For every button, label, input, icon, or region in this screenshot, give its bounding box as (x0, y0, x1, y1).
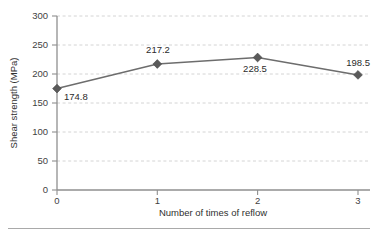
x-axis-title: Number of times of reflow (159, 207, 267, 218)
data-point-marker-1 (153, 60, 162, 69)
y-tick-marks (52, 16, 57, 190)
y-tick-label-0: 0 (43, 184, 48, 195)
data-point-label-0: 174.8 (64, 91, 88, 102)
data-point-marker-3 (354, 71, 363, 80)
data-markers (53, 53, 363, 93)
x-tick-labels: 0 1 2 3 (54, 195, 360, 206)
data-point-labels: 174.8 217.2 228.5 198.5 (64, 44, 370, 102)
x-tick-label-2: 2 (255, 195, 260, 206)
y-tick-label-200: 200 (32, 68, 48, 79)
gridlines (57, 16, 370, 161)
footer-divider (8, 228, 370, 229)
y-axis-title: Shear strength (MPa) (8, 58, 19, 149)
data-point-label-2: 228.5 (243, 63, 267, 74)
data-point-label-3: 198.5 (346, 57, 370, 68)
x-tick-label-3: 3 (355, 195, 360, 206)
data-point-label-1: 217.2 (146, 44, 170, 55)
y-tick-label-300: 300 (32, 10, 48, 21)
y-tick-label-150: 150 (32, 97, 48, 108)
shear-strength-line-chart: 300 250 200 150 100 50 0 0 1 2 3 (0, 0, 378, 237)
y-tick-labels: 300 250 200 150 100 50 0 (32, 10, 48, 195)
data-point-marker-2 (253, 53, 262, 62)
y-tick-label-50: 50 (37, 155, 48, 166)
data-point-marker-0 (53, 84, 62, 93)
x-tick-label-0: 0 (54, 195, 59, 206)
y-tick-label-100: 100 (32, 126, 48, 137)
x-tick-label-1: 1 (155, 195, 160, 206)
x-tick-marks (57, 190, 358, 195)
series-line-shear-strength (57, 58, 358, 89)
y-tick-label-250: 250 (32, 39, 48, 50)
figure-container: 300 250 200 150 100 50 0 0 1 2 3 (0, 0, 378, 237)
